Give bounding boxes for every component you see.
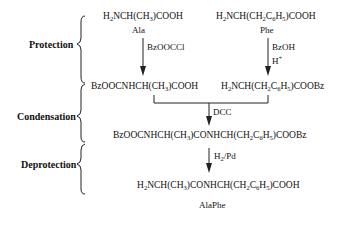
brace-deprotection xyxy=(77,144,85,194)
formula-ala: H2NCH(CH3)COOH xyxy=(103,12,183,23)
reagent-bzoh: BzOH xyxy=(272,43,295,52)
stage-label-protection: Protection xyxy=(29,40,73,50)
stage-label-condensation: Condensation xyxy=(17,112,76,122)
brace-condensation xyxy=(77,84,85,142)
reagent-h-plus: H+ xyxy=(272,55,282,66)
reagent-bzoocl: BzOOCCl xyxy=(147,43,185,52)
brace-protection xyxy=(77,16,85,83)
name-phe: Phe xyxy=(260,26,274,35)
formula-dipeptide-protected: BzOOCNHCH(CH3)CONHCH(CH2C6H5)COOBz xyxy=(113,131,307,142)
stage-label-deprotection: Deprotection xyxy=(21,160,76,170)
reagent-h2-pd: H2/Pd xyxy=(214,152,236,163)
reagent-dcc: DCC xyxy=(213,108,232,117)
name-product: AlaPhe xyxy=(199,201,226,210)
formula-phe: H2NCH(CH2C6H5)COOH xyxy=(216,12,316,23)
formula-ala-protected: BzOOCNHCH(CH3)COOH xyxy=(91,82,198,93)
formula-phe-protected: H2NCH(CH2C6H5)COOBz xyxy=(221,82,324,93)
formula-product: H2NCH(CH3)CONHCH(CH2C6H5)COOH xyxy=(137,181,300,192)
name-ala: Ala xyxy=(132,26,145,35)
